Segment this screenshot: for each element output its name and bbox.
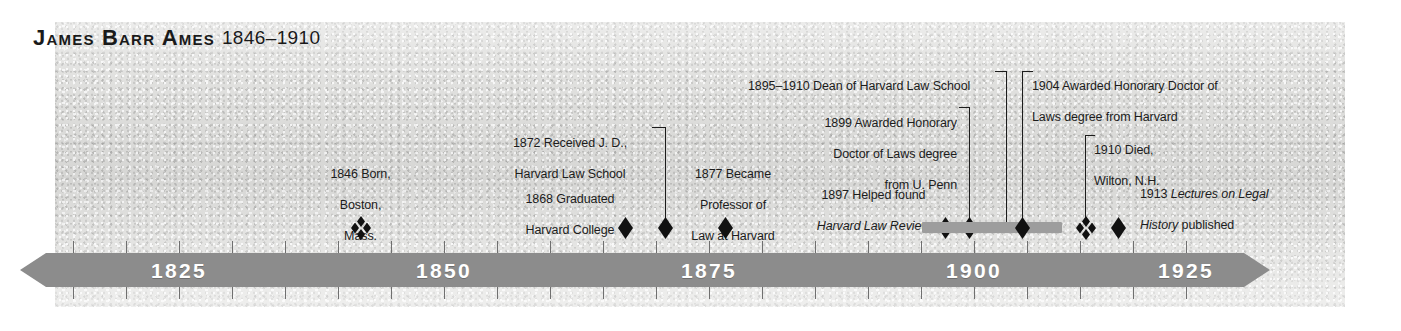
label-1872-line1: 1872 Received J. D.,	[490, 136, 650, 151]
axis-tick	[1027, 241, 1028, 253]
label-1913-line2: History published	[1140, 218, 1330, 233]
axis-tick	[762, 241, 763, 253]
leader-1872-horizontal	[652, 127, 666, 128]
label-1899-line2: Doctor of Laws degree	[790, 147, 957, 162]
marker-1846-cluster-diamond	[351, 216, 371, 240]
axis-tick	[815, 241, 816, 253]
leader-dean-vertical	[1006, 71, 1007, 223]
label-1913-italic-title: Lectures on Legal	[1171, 187, 1269, 201]
axis-tick	[444, 241, 445, 253]
label-1913-lectures: 1913 Lectures on Legal History published	[1140, 172, 1330, 249]
timeline-infographic: James Barr Ames1846–1910 1846 Born, Bost…	[0, 0, 1401, 331]
axis-tick	[656, 241, 657, 253]
label-1877-line3: Law at Harvard	[668, 229, 798, 244]
label-1846-line1: 1846 Born,	[303, 167, 418, 182]
axis-arrow-bar	[20, 253, 1270, 287]
axis-tick	[603, 241, 604, 253]
axis-tick	[497, 287, 498, 299]
marker-1913-diamond	[1111, 217, 1126, 239]
label-1895-1910-dean: 1895–1910 Dean of Harvard Law School	[748, 64, 1004, 110]
axis-tick	[1186, 241, 1187, 253]
axis-tick	[126, 241, 127, 253]
axis-tick	[709, 287, 710, 299]
title-name: James Barr Ames	[33, 25, 215, 50]
label-1897-law-review: 1897 Helped found Harvard Law Review	[790, 173, 957, 250]
leader-1904-vertical	[1022, 71, 1023, 223]
label-1846-born: 1846 Born, Boston, Mass.	[303, 152, 418, 260]
axis-tick	[444, 287, 445, 299]
leader-1910-horizontal	[1085, 135, 1095, 136]
axis-tick	[868, 241, 869, 253]
axis-tick	[603, 287, 604, 299]
leader-1910-vertical	[1085, 135, 1086, 222]
axis-tick	[179, 287, 180, 299]
axis-tick	[1186, 287, 1187, 299]
label-1913-line1: 1913 Lectures on Legal	[1140, 187, 1330, 202]
axis-tick	[73, 287, 74, 299]
axis-tick	[550, 287, 551, 299]
label-1904-line2: Laws degree from Harvard	[1032, 110, 1262, 125]
label-1846-line2: Boston,	[303, 198, 418, 213]
axis-tick	[126, 287, 127, 299]
axis-tick	[232, 287, 233, 299]
label-1877-line1: 1877 Became	[668, 167, 798, 182]
axis-tick	[179, 241, 180, 253]
axis-tick	[815, 287, 816, 299]
axis-tick	[1027, 287, 1028, 299]
axis-tick	[656, 287, 657, 299]
axis-tick	[232, 241, 233, 253]
axis-tick	[338, 287, 339, 299]
label-1910-line1: 1910 Died,	[1094, 143, 1204, 158]
axis-label-1850: 1850	[416, 259, 472, 283]
label-1877-professor: 1877 Became Professor of Law at Harvard	[668, 152, 798, 260]
axis-label-1900: 1900	[946, 259, 1002, 283]
label-dean-line1: 1895–1910 Dean of Harvard Law School	[748, 79, 1004, 94]
axis-tick	[391, 241, 392, 253]
axis-tick	[762, 287, 763, 299]
leader-1899-vertical	[969, 107, 970, 223]
axis-tick	[1080, 287, 1081, 299]
label-1868-line1: 1868 Graduated	[490, 192, 650, 207]
axis-tick	[974, 287, 975, 299]
axis-tick	[391, 287, 392, 299]
label-1877-line2: Professor of	[668, 198, 798, 213]
axis-tick	[709, 241, 710, 253]
axis-tick	[497, 241, 498, 253]
title-years: 1846–1910	[222, 27, 321, 48]
label-1899-line1: 1899 Awarded Honorary	[790, 116, 957, 131]
marker-1904-diamond	[1015, 217, 1030, 239]
label-1868-graduated: 1868 Graduated Harvard College	[490, 177, 650, 254]
label-1913-italic-cont: History	[1140, 218, 1178, 232]
axis-tick	[338, 241, 339, 253]
leader-1872-vertical	[665, 127, 666, 223]
axis-label-1925: 1925	[1158, 259, 1214, 283]
label-1897-line1: 1897 Helped found	[790, 188, 957, 203]
page-title: James Barr Ames1846–1910	[33, 25, 320, 51]
label-1904-line1: 1904 Awarded Honorary Doctor of	[1032, 79, 1262, 94]
axis-tick	[285, 287, 286, 299]
axis-tick	[1133, 241, 1134, 253]
axis-label-1875: 1875	[681, 259, 737, 283]
axis-tick	[974, 241, 975, 253]
label-1913-suffix: published	[1178, 218, 1234, 232]
axis-label-1825: 1825	[151, 259, 207, 283]
axis-tick	[868, 287, 869, 299]
axis-tick	[921, 287, 922, 299]
dean-span-bar	[922, 222, 1062, 233]
timeline-content: James Barr Ames1846–1910 1846 Born, Bost…	[0, 0, 1401, 331]
axis-tick	[550, 241, 551, 253]
label-1913-prefix: 1913	[1140, 187, 1171, 201]
axis-tick	[921, 241, 922, 253]
marker-1910-cluster-diamond	[1076, 216, 1096, 240]
axis-tick	[285, 241, 286, 253]
leader-1904-horizontal	[1022, 71, 1033, 72]
timeline-axis: 1825 1850 1875 1900 1925	[20, 253, 1270, 287]
axis-tick	[1080, 241, 1081, 253]
axis-tick	[1133, 287, 1134, 299]
axis-tick	[73, 241, 74, 253]
